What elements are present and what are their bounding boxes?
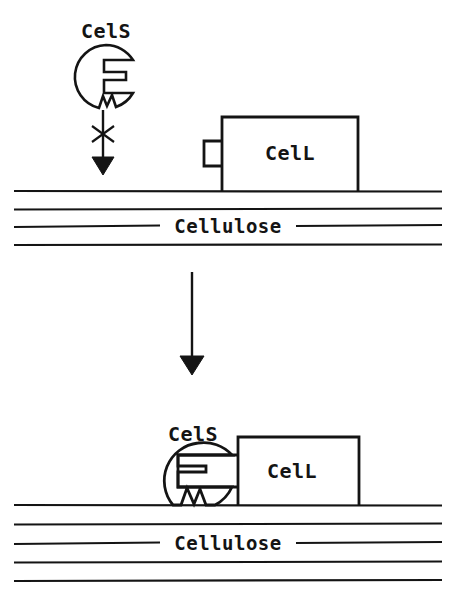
cellulose-line-top-3-right [296,225,442,226]
cellulose-line-top-4 [14,245,442,246]
cellulose-label-bottom: Cellulose [174,532,281,554]
cellulose-line-bottom-2 [14,524,442,525]
transition-arrow-head [180,356,204,375]
cell-label-bottom: CelL [267,459,317,483]
blocked-arrow-head [92,157,114,175]
cellulose-line-bottom-1 [14,505,442,506]
cellulose-label-top: Cellulose [174,215,281,237]
diagram-canvas: CelS CelL Cellulose [0,0,456,598]
cels-cell-cellulose-diagram: CelS CelL Cellulose [0,0,456,598]
cellulose-line-bottom-5 [14,580,442,581]
top-panel: CelS CelL Cellulose [14,19,442,245]
cellulose-band-top: Cellulose [14,191,442,245]
cels-bound-shape [164,443,232,505]
cellulose-line-top-1 [14,191,442,192]
cellulose-line-bottom-3-right [296,542,442,543]
cels-notched-circle-path [75,45,133,108]
cell-label-top: CelL [265,141,315,165]
cellulose-line-top-2 [14,209,442,210]
cellulose-line-top-3-left [14,226,160,228]
cels-notched-circle-path-bound [164,443,232,505]
cels-label-bottom: CelS [168,422,218,446]
cellulose-line-bottom-4 [14,562,442,563]
cell-tab-top [204,141,222,166]
cellulose-line-bottom-3-left [14,543,160,545]
cellulose-band-bottom: Cellulose [14,505,442,581]
blocked-binding-arrow [92,110,114,175]
cels-label-top: CelS [81,19,131,43]
cels-unbound-shape [75,45,133,108]
transition-arrow [180,272,204,375]
bottom-panel: CelS CelL Cellulose [14,422,442,581]
